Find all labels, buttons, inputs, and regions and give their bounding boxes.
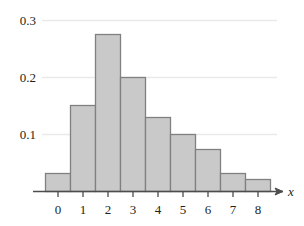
ytick-label-0.1: 0.1 [6, 128, 36, 141]
bar-3 [121, 78, 146, 192]
xtick-label-4: 4 [148, 203, 168, 216]
bar-1 [71, 106, 96, 192]
x-axis-label: x [288, 185, 294, 198]
x-axis-ticks [58, 192, 258, 198]
bar-2 [96, 35, 121, 192]
xtick-label-6: 6 [198, 203, 218, 216]
bar-4 [146, 118, 171, 192]
bar-8 [246, 180, 271, 192]
histogram-figure: 0.3 0.2 0.1 0 1 2 3 4 5 6 7 8 x [0, 0, 304, 226]
ytick-label-0.3: 0.3 [6, 14, 36, 27]
xtick-label-2: 2 [98, 203, 118, 216]
bars [46, 35, 271, 192]
xtick-label-1: 1 [73, 203, 93, 216]
bar-7 [221, 174, 246, 192]
bar-0 [46, 174, 71, 192]
xtick-label-0: 0 [48, 203, 68, 216]
chart-canvas [0, 0, 304, 226]
xtick-label-8: 8 [248, 203, 268, 216]
xtick-label-7: 7 [223, 203, 243, 216]
xtick-label-5: 5 [173, 203, 193, 216]
bar-5 [171, 135, 196, 192]
xtick-label-3: 3 [123, 203, 143, 216]
bar-6 [196, 150, 221, 192]
ytick-label-0.2: 0.2 [6, 71, 36, 84]
